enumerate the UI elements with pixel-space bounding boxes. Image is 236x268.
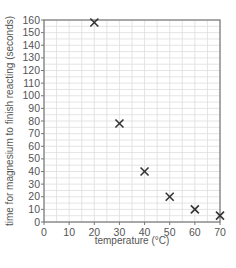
y-tick-label: 100 xyxy=(22,89,40,101)
x-tick-label: 10 xyxy=(63,226,75,238)
y-tick-label: 30 xyxy=(28,178,40,190)
y-tick-label: 0 xyxy=(34,216,40,228)
y-axis-ticks: 0102030405060708090100110120130140150160 xyxy=(22,14,44,228)
y-tick-label: 140 xyxy=(22,39,40,51)
y-tick-label: 10 xyxy=(28,203,40,215)
y-tick-label: 60 xyxy=(28,140,40,152)
y-tick-label: 70 xyxy=(28,127,40,139)
y-tick-label: 150 xyxy=(22,26,40,38)
y-tick-label: 90 xyxy=(28,102,40,114)
x-tick-label: 70 xyxy=(214,226,226,238)
scatter-chart: 0102030405060708090100110120130140150160… xyxy=(0,0,236,268)
y-tick-label: 110 xyxy=(23,77,40,89)
grid-lines xyxy=(44,20,220,222)
x-tick-label: 0 xyxy=(41,226,47,238)
x-tick-label: 60 xyxy=(189,226,201,238)
y-tick-label: 130 xyxy=(22,51,40,63)
x-axis-label: temperature (°C) xyxy=(95,235,170,246)
y-tick-label: 80 xyxy=(28,115,40,127)
y-tick-label: 120 xyxy=(22,64,40,76)
y-tick-label: 160 xyxy=(22,14,40,26)
y-tick-label: 40 xyxy=(28,165,40,177)
y-tick-label: 20 xyxy=(28,190,40,202)
y-tick-label: 50 xyxy=(28,152,40,164)
y-axis-label: time for magnesium to finish reacting (s… xyxy=(4,16,15,226)
